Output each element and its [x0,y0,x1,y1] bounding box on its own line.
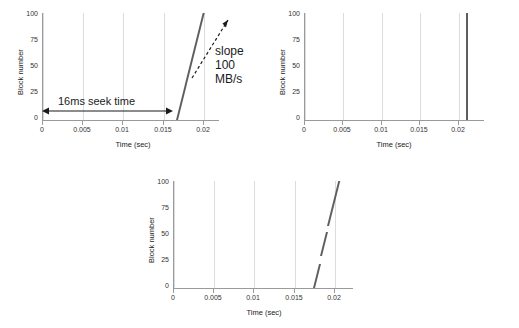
panel-3-series-segment-1 [313,264,321,288]
panel-3-x-axis-title: Time (sec) [229,308,299,317]
panel-2-x-tick [419,121,420,125]
panel-1-x-tick [42,121,43,125]
panel-1-x-tick-label: 0.005 [69,126,95,133]
panel-3-y-tick-label: 0 [151,282,169,289]
panel-3-x-tick-label: 0.02 [323,294,345,301]
panel-1-gridline [164,13,165,120]
panel-1-y-tick-label: 25 [20,88,38,95]
panel-3-gridline [214,181,215,288]
panel-1-x-tick-label: 0.01 [111,126,133,133]
panel-2-y-tick-label: 25 [282,88,300,95]
panel-2-y-tick-label: 75 [282,36,300,43]
panel-1-y-tick-label: 50 [20,62,38,69]
panel-3-series-segment-2 [320,232,328,256]
panel-2-y-tick-label: 0 [282,114,300,121]
panel-1-y-tick-label: 75 [20,36,38,43]
panel-2-x-tick-label: 0.005 [329,126,355,133]
panel-3-gridline [295,181,296,288]
panel-1-x-tick-label: 0.015 [150,126,176,133]
panel-1-gridline [204,13,205,120]
panel-2-x-tick-label: 0.015 [406,126,432,133]
panel-2-plot-area [304,13,484,121]
panel-1-x-tick [163,121,164,125]
panel-2-gridline [420,13,421,120]
chart-panel-2: Block number 100 75 50 25 0 0 0.005 0.01… [262,0,519,160]
panel-3-gridline [174,181,175,288]
panel-2-x-tick [342,121,343,125]
panel-3-y-tick-label: 50 [151,230,169,237]
panel-2-gridline [305,13,306,120]
panel-2-y-tick-label: 50 [282,62,300,69]
panel-3-y-tick-label: 25 [151,256,169,263]
panel-2-series-transfer [466,13,468,120]
chart-panel-3: Block number 100 75 50 25 0 0 0.005 0.01… [131,168,388,328]
panel-1-x-tick-label: 0 [32,126,52,133]
panel-1-series-transfer [176,13,205,120]
panel-3-x-tick-label: 0.015 [281,294,307,301]
panel-3-x-tick [253,289,254,293]
panel-2-gridline [382,13,383,120]
panel-1-x-tick [122,121,123,125]
chart-panel-1: Block number 100 75 50 25 0 0 0.005 0.01… [0,0,255,160]
panel-1-y-tick-label: 0 [20,114,38,121]
panel-3-series-segment-3 [327,181,340,226]
panel-1-y-tick-label: 100 [20,10,38,17]
panel-3-x-tick-label: 0.01 [242,294,264,301]
panel-2-x-tick-label: 0 [294,126,314,133]
panel-1-x-tick-label: 0.02 [192,126,214,133]
panel-2-x-tick-label: 0.02 [447,126,469,133]
panel-1-slope-annotation: slope 100 MB/s [215,44,260,86]
panel-2-x-tick [304,121,305,125]
panel-3-y-tick-label: 75 [151,204,169,211]
panel-1-x-tick [82,121,83,125]
panel-3-y-tick-label: 100 [151,178,169,185]
panel-1-x-tick [203,121,204,125]
panel-2-gridline [459,13,460,120]
panel-1-gridline [43,13,44,120]
panel-2-x-tick [458,121,459,125]
panel-3-x-tick-label: 0.005 [200,294,226,301]
panel-2-x-axis-title: Time (sec) [359,140,429,149]
panel-3-gridline [254,181,255,288]
panel-3-plot-area [173,181,353,289]
panel-2-y-tick-label: 100 [282,10,300,17]
panel-1-seek-time-annotation: 16ms seek time [58,95,135,107]
panel-1-x-axis-title: Time (sec) [98,140,168,149]
panel-2-x-tick [381,121,382,125]
panel-3-x-tick-label: 0 [163,294,183,301]
panel-3-x-tick [173,289,174,293]
panel-3-x-tick [213,289,214,293]
panel-3-x-tick [334,289,335,293]
panel-2-x-tick-label: 0.01 [370,126,392,133]
panel-3-x-tick [294,289,295,293]
panel-2-gridline [343,13,344,120]
